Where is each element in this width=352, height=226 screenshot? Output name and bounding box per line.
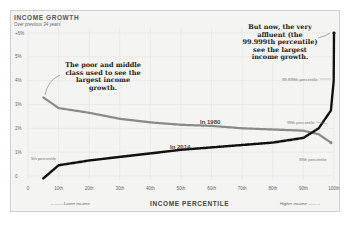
x-tick-label: 30th — [115, 186, 124, 191]
y-tick-label: 0 — [15, 174, 18, 179]
label-99th-percentile-1980: 99th percentile — [287, 120, 314, 125]
series-label-2014: In 2014 — [170, 144, 190, 150]
x-tick-label: 60th — [207, 186, 216, 191]
label-99th-percentile-2014: 99th percentile — [299, 157, 326, 162]
arrow-left-icon: ←—— — [50, 201, 64, 206]
series-endpoint — [329, 141, 332, 144]
x-axis-title: INCOME PERCENTILE — [150, 200, 229, 207]
chart-subtitle: Over previous 34 years — [14, 22, 61, 27]
annotation-poor-middle: The poor and middle class used to see th… — [62, 62, 144, 92]
footer-higher-income-text: Higher income — [280, 201, 307, 206]
x-tick-label: 50th — [177, 186, 186, 191]
chart-title: INCOME GROWTH — [14, 14, 79, 21]
x-tick-label: 100th — [328, 186, 340, 191]
y-tick-label: 3% — [15, 102, 22, 107]
x-tick-label: 80th — [268, 186, 277, 191]
x-tick-label: 90th — [299, 186, 308, 191]
y-tick-label: 1% — [15, 150, 22, 155]
label-5th-percentile: 5th percentile — [31, 156, 56, 161]
x-tick-label: 10th — [54, 186, 63, 191]
label-99999th-percentile: 99.999th percentile — [282, 77, 318, 82]
x-tick-label: 0 — [27, 186, 30, 191]
x-tick-label: 20th — [85, 186, 94, 191]
y-tick-label: 5% — [15, 54, 22, 59]
footer-lower-income: ←—— Lower income — [50, 201, 90, 206]
footer-lower-income-text: Lower income — [64, 201, 90, 206]
annotation-affluent: But now, the very affluent (the 99.999th… — [240, 24, 320, 62]
footer-higher-income: Higher income ——→ — [280, 201, 321, 206]
y-tick-label: +6% — [15, 31, 24, 36]
annotation-leader-left — [45, 75, 60, 95]
series-label-1980: In 1980 — [200, 119, 220, 125]
series-endpoint — [332, 31, 335, 34]
x-tick-label: 40th — [146, 186, 155, 191]
x-tick-label: 70th — [238, 186, 247, 191]
y-tick-label: 4% — [15, 78, 22, 83]
y-tick-label: 2% — [15, 126, 22, 131]
arrow-right-icon: ——→ — [307, 201, 321, 206]
